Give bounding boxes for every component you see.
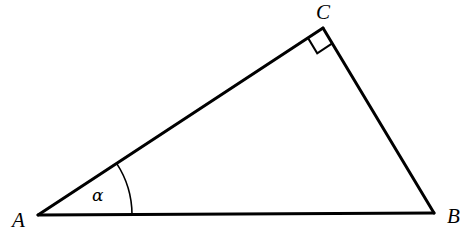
triangle-side-ab [38,213,434,215]
triangle-figure-svg: A B C α [0,0,466,231]
vertex-label-b: B [447,204,460,228]
angle-label-alpha: α [92,185,104,205]
geometry-diagram: A B C α [0,0,466,231]
vertex-label-a: A [10,208,25,231]
diagram-background [0,0,466,231]
vertex-label-c: C [316,0,331,24]
